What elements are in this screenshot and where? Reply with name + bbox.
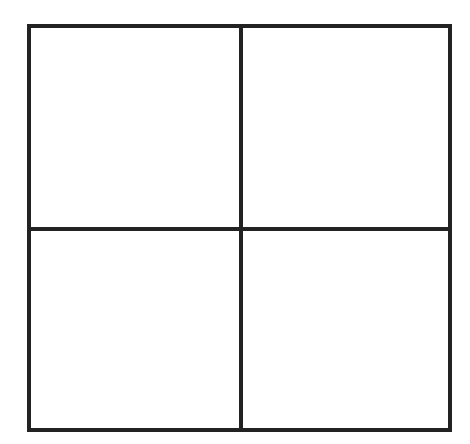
- grid-cell-bottom-right: [243, 231, 448, 428]
- grid-cell-bottom-left: [31, 231, 239, 428]
- horizontal-divider: [31, 227, 448, 231]
- grid-cell-top-right: [243, 28, 448, 227]
- grid-cell-top-left: [31, 28, 239, 227]
- two-by-two-grid: [27, 24, 452, 432]
